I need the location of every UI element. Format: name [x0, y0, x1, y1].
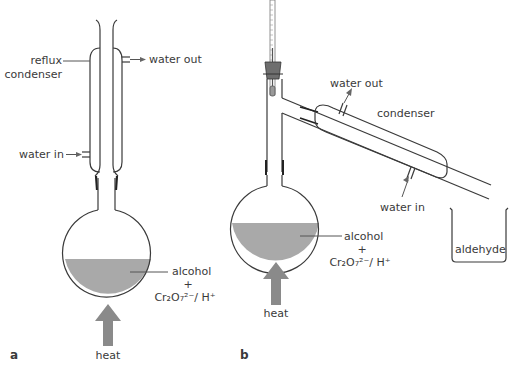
heat-arrow-icon: [263, 262, 289, 305]
stopper: [265, 62, 281, 79]
mixture-plus: +: [183, 278, 192, 291]
reflux-condenser-label-1: reflux: [31, 54, 63, 67]
reflux-jacket-left: [90, 48, 100, 172]
mixture-label: alcohol: [172, 265, 211, 278]
water-in-label-b: water in: [380, 201, 425, 214]
panel-a-reflux-apparatus: [63, 20, 169, 346]
reagent-label: Cr₂O₇²⁻/ H⁺: [154, 291, 215, 304]
panel-a-letter: a: [10, 348, 18, 362]
diagram-svg: reflux condenser water out water in alco…: [0, 0, 509, 366]
distillation-flask-liquid: [232, 223, 319, 260]
heat-arrow-icon: [95, 304, 121, 346]
reflux-condenser-label-2: condenser: [5, 68, 63, 81]
condenser-label-b: condenser: [377, 107, 435, 120]
reflux-flask-liquid: [65, 259, 151, 294]
reflux-jacket-right: [113, 48, 122, 172]
water-out-label: water out: [149, 53, 203, 66]
reagent-label-b: Cr₂O₇²⁻/ H⁺: [329, 256, 390, 269]
reflux-inner-tube-left: [95, 20, 100, 176]
reflux-inner-tube-right: [113, 20, 118, 176]
panel-b-labels: water out condenser water in aldehyde al…: [240, 77, 506, 362]
panel-b-letter: b: [240, 348, 249, 362]
mixture-plus-b: +: [357, 243, 366, 256]
water-in-label: water in: [19, 148, 64, 161]
heat-label: heat: [96, 349, 121, 362]
oxidation-apparatus-figure: reflux condenser water out water in alco…: [0, 0, 509, 366]
aldehyde-label: aldehyde: [455, 243, 506, 256]
heat-label-b: heat: [264, 307, 289, 320]
mixture-label-b: alcohol: [344, 230, 383, 243]
water-out-label-b: water out: [330, 77, 384, 90]
